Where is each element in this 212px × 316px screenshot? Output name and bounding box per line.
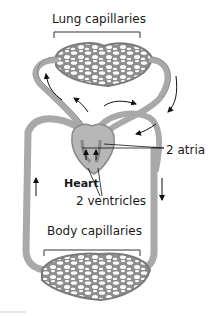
- heart-label: Heart: [64, 177, 99, 190]
- heart: [72, 124, 114, 174]
- lung-capillaries-label: Lung capillaries: [52, 12, 146, 26]
- circulation-diagram: Lung capillaries 2 atria Heart 2 ventric…: [0, 0, 212, 316]
- lung-bracket: [54, 32, 140, 38]
- ventricles-label: 2 ventricles: [76, 194, 146, 208]
- diagram-graphic: [0, 0, 212, 316]
- body-capillary-bed: [42, 254, 150, 300]
- lung-capillary-bed: [56, 43, 152, 86]
- atria-label: 2 atria: [166, 143, 205, 157]
- body-capillaries-label: Body capillaries: [47, 224, 142, 238]
